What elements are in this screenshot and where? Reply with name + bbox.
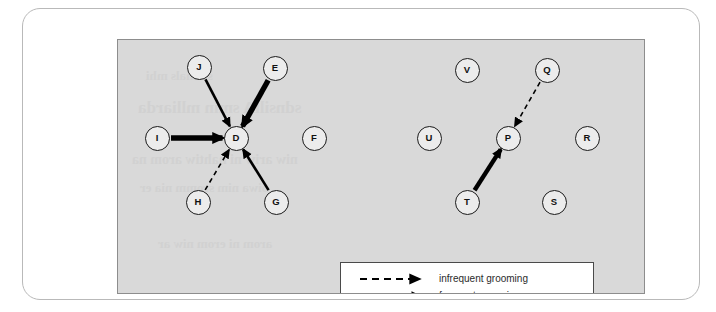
node-j: J	[187, 55, 212, 80]
figure-root: snimals mhisdnsillA smin mlliardaniw ari…	[0, 0, 716, 312]
node-t: T	[455, 190, 480, 215]
node-p: P	[496, 126, 521, 151]
legend-label-frequent: frequent grooming	[439, 290, 520, 294]
node-i: I	[145, 126, 170, 151]
node-h: H	[186, 190, 211, 215]
diagram-panel: snimals mhisdnsillA smin mlliardaniw ari…	[117, 39, 645, 294]
node-e: E	[263, 56, 288, 81]
legend-row-infrequent: infrequent grooming	[341, 270, 593, 287]
legend-row-frequent: frequent grooming	[341, 287, 593, 294]
node-r: R	[575, 126, 600, 151]
node-q: Q	[535, 58, 560, 83]
legend-label-infrequent: infrequent grooming	[439, 273, 528, 284]
node-u: U	[417, 126, 442, 151]
legend-arrow-frequent-icon	[359, 288, 433, 295]
node-v: V	[455, 58, 480, 83]
node-g: G	[264, 190, 289, 215]
legend-box: infrequent groomingfrequent groomingvery…	[340, 262, 594, 294]
figure-outer-frame: snimals mhisdnsillA smin mlliardaniw ari…	[22, 8, 700, 300]
node-f: F	[302, 126, 327, 151]
node-layer: JEIDFHGVQUPRTS	[118, 40, 645, 294]
node-d: D	[224, 126, 249, 151]
legend-arrow-infrequent-icon	[359, 271, 433, 287]
node-s: S	[542, 190, 567, 215]
